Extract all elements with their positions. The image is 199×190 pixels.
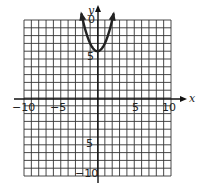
y-tick-5: 5 — [87, 51, 94, 62]
x-tick-5: 5 — [132, 102, 139, 113]
y-tick-neg10: −10 — [75, 168, 98, 179]
y-tick-10: 0 — [88, 14, 95, 25]
coordinate-plane — [0, 0, 199, 190]
curve-arrow-right-icon — [109, 12, 116, 22]
y-tick-neg5: 5 — [86, 138, 93, 149]
y-axis — [95, 5, 101, 183]
x-axis-label: x — [189, 93, 195, 104]
y-axis-arrow-icon — [95, 5, 101, 12]
x-tick-10: 10 — [162, 102, 176, 113]
x-tick-neg5: −5 — [50, 102, 66, 113]
curve-arrow-left-icon — [79, 12, 86, 22]
x-tick-neg10: −10 — [12, 102, 35, 113]
x-axis-arrow-icon — [180, 96, 187, 102]
